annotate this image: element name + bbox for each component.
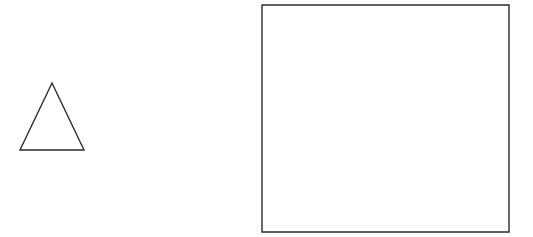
- shapes-svg: [0, 0, 533, 237]
- drawing-canvas: [0, 0, 533, 237]
- canvas-background: [0, 0, 533, 237]
